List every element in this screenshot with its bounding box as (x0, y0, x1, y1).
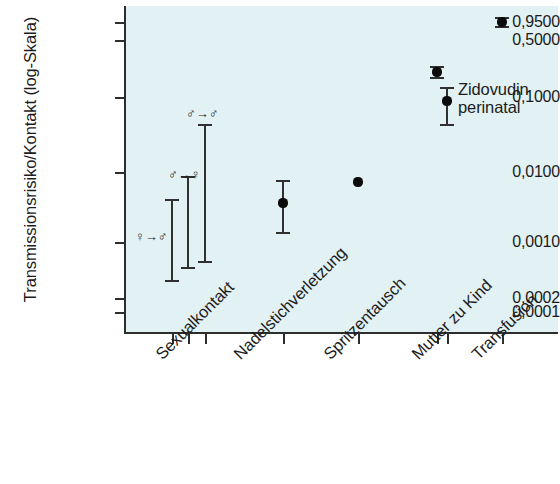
data-point-marker (278, 198, 287, 207)
error-bar-cap-lower (198, 261, 212, 263)
error-bar-cap-upper (276, 180, 290, 182)
error-bar-line (446, 88, 448, 125)
y-tick-mark (115, 172, 125, 174)
error-bar-line (204, 125, 206, 262)
y-tick-mark (115, 22, 125, 24)
error-bar-cap-upper (440, 87, 454, 89)
error-bar-line (171, 200, 173, 281)
transmission-direction-symbol-label: ♀→♂ (135, 230, 168, 243)
error-bar-cap-lower (165, 280, 179, 282)
y-tick-label: 0,0100 (448, 164, 560, 180)
error-bar-line (187, 177, 189, 268)
error-bar-cap-upper (198, 124, 212, 126)
transmission-direction-symbol-label: ♂→♀ (168, 168, 201, 181)
data-point-marker (353, 177, 362, 186)
y-tick-mark (115, 312, 125, 314)
data-point-marker (497, 17, 506, 26)
y-tick-label: 0,5000 (448, 32, 560, 48)
y-tick-label: 0,0010 (448, 234, 560, 250)
annotation-zidovudin-perinatal: Zidovudinperinatal (458, 80, 529, 117)
y-axis-title: Transmissionsrisiko/Kontakt (log-Skala) (21, 0, 40, 340)
annotation-line-1: Zidovudin (458, 80, 529, 98)
error-bar-cap-lower (181, 267, 195, 269)
y-axis-line (124, 6, 126, 334)
y-tick-mark (115, 242, 125, 244)
transmission-direction-symbol-label: ♂→♂ (186, 107, 219, 120)
x-tick-mark (283, 334, 285, 344)
x-tick-mark (205, 334, 207, 344)
data-point-marker (442, 96, 451, 105)
chart-figure: Transmissionsrisiko/Kontakt (log-Skala) … (0, 0, 560, 484)
annotation-line-2: perinatal (458, 98, 529, 116)
y-tick-mark (115, 298, 125, 300)
error-bar-cap-lower (440, 124, 454, 126)
error-bar-cap-upper (165, 199, 179, 201)
error-bar-cap-lower (430, 77, 444, 79)
data-point-marker (432, 67, 441, 76)
error-bar-cap-lower (276, 232, 290, 234)
y-tick-mark (115, 40, 125, 42)
y-tick-mark (115, 97, 125, 99)
